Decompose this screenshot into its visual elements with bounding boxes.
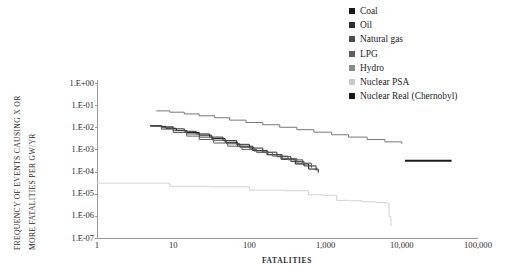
- chart-root: FREQUENCY OF EVENTS CAUSING X OR MORE FA…: [0, 0, 512, 277]
- x-tick-label: 1,000: [316, 240, 335, 250]
- legend-item-label: LPG: [360, 49, 378, 59]
- x-tick-label: 100: [243, 240, 256, 250]
- legend-item: LPG: [349, 47, 512, 61]
- x-axis-title-text: FATALITIES: [262, 256, 312, 265]
- legend-swatch-icon: [349, 51, 355, 57]
- legend-swatch-icon: [349, 22, 355, 28]
- x-axis-tick-labels: 1101001,00010,000100,000: [0, 240, 512, 256]
- legend-swatch-icon: [349, 79, 355, 85]
- legend-item: Coal: [349, 4, 512, 18]
- x-tick-label: 10,000: [390, 240, 414, 250]
- legend-item-label: Coal: [360, 6, 378, 16]
- legend-item-label: Natural gas: [360, 34, 403, 44]
- legend-item: Nuclear PSA: [349, 75, 512, 89]
- legend-item-label: Nuclear Real (Chernobyl): [360, 91, 457, 101]
- legend-swatch-icon: [349, 65, 355, 71]
- x-tick-label: 10: [169, 240, 178, 250]
- legend-item: Oil: [349, 18, 512, 32]
- legend-item-label: Hydro: [360, 63, 384, 73]
- x-tick-label: 100,000: [464, 240, 492, 250]
- series-line-nuclear-psa: [97, 183, 391, 226]
- series-line-lpg: [150, 126, 302, 164]
- series-line-hydro: [156, 111, 401, 144]
- legend-item: Nuclear Real (Chernobyl): [349, 89, 512, 103]
- legend-item: Hydro: [349, 61, 512, 75]
- chart-legend: CoalOilNatural gasLPGHydroNuclear PSANuc…: [349, 4, 512, 103]
- legend-item-label: Oil: [360, 20, 372, 30]
- legend-item-label: Nuclear PSA: [360, 77, 409, 87]
- legend-item: Natural gas: [349, 32, 512, 46]
- legend-swatch-icon: [349, 93, 355, 99]
- legend-swatch-icon: [349, 8, 355, 14]
- legend-swatch-icon: [349, 36, 355, 42]
- x-tick-label: 1: [95, 240, 99, 250]
